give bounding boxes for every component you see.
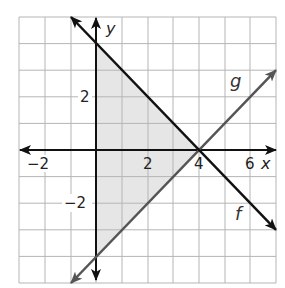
coordinate-graph: −2 2 4 6 2 −2 x y f g xyxy=(0,0,285,288)
x-axis-label: x xyxy=(260,154,271,173)
line-g-label: g xyxy=(230,70,241,91)
y-tick-label-2: 2 xyxy=(80,88,90,106)
x-tick-label-neg2: −2 xyxy=(27,155,49,173)
y-tick-label-neg2: −2 xyxy=(64,194,86,212)
y-axis-label: y xyxy=(105,19,116,38)
line-f-label: f xyxy=(235,203,244,224)
x-tick-label-4: 4 xyxy=(194,155,204,173)
x-tick-label-2: 2 xyxy=(143,155,153,173)
x-tick-label-6: 6 xyxy=(245,155,255,173)
